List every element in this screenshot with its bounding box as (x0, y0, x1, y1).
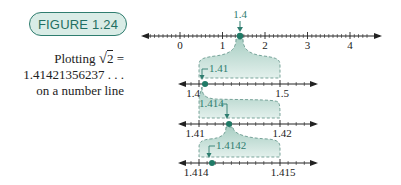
point-marker (226, 121, 232, 127)
tick-label-0: 0 (177, 39, 183, 51)
pointer-arrow-icon (237, 27, 243, 32)
point-label-1-4142: 1.4142 (216, 139, 246, 151)
main-number-line: 0 1 2 3 4 1.4 (141, 8, 382, 51)
point-marker (209, 160, 215, 166)
tick-label-2: 2 (262, 39, 268, 51)
tick-label-left: 1.414 (184, 166, 209, 178)
point-marker (202, 81, 208, 87)
point-label-1-41: 1.41 (209, 62, 228, 74)
tick-label-right: 1.42 (272, 127, 291, 139)
point-label-1-4: 1.4 (233, 8, 247, 20)
tick-label-right: 1.415 (271, 166, 296, 178)
tick-label-3: 3 (305, 39, 311, 51)
number-line-diagram: 0 1 2 3 4 1.4 1.4 1.5 1.41 (0, 0, 401, 185)
point-label-1-414: 1.414 (199, 97, 224, 109)
tick-label-4: 4 (347, 39, 353, 51)
tick-label-right: 1.5 (275, 87, 289, 99)
tick-label-left: 1.41 (185, 127, 204, 139)
point-marker (237, 33, 243, 39)
tick-label-1: 1 (220, 39, 226, 51)
